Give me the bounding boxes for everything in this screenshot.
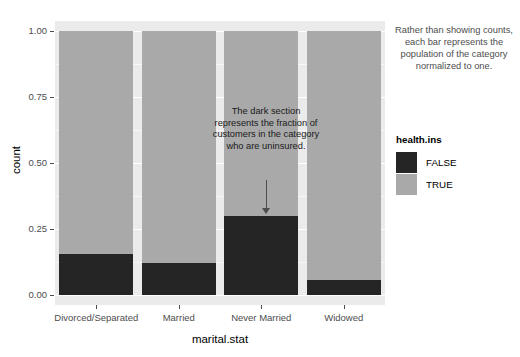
- bar-segment-false[interactable]: [142, 263, 216, 295]
- bar-group[interactable]: [59, 31, 133, 295]
- legend: health.ins FALSETRUE: [396, 134, 457, 195]
- y-tick-label: 1.00: [29, 26, 48, 36]
- plot-panel: [55, 21, 385, 305]
- legend-item-label: FALSE: [426, 157, 457, 168]
- y-tick-mark: [50, 97, 54, 98]
- legend-item[interactable]: TRUE: [396, 173, 457, 195]
- bars-layer: [55, 21, 385, 305]
- x-tick-mark: [344, 305, 345, 309]
- bar-segment-true[interactable]: [142, 31, 216, 263]
- bar-segment-false[interactable]: [59, 254, 133, 295]
- x-axis-title: marital.stat: [55, 333, 385, 345]
- annotation-side-note: Rather than showing counts, each bar rep…: [392, 24, 516, 72]
- bar-segment-false[interactable]: [224, 216, 298, 295]
- bar-segment-true[interactable]: [307, 31, 381, 280]
- chart-root: 0.000.250.500.751.00 count Divorced/Sepa…: [0, 0, 520, 357]
- y-tick-mark: [50, 295, 54, 296]
- bar-group[interactable]: [224, 31, 298, 295]
- annotation-in-plot: The dark section represents the fraction…: [212, 106, 320, 152]
- y-tick-label: 0.00: [29, 290, 48, 300]
- annotation-arrow-line: [266, 180, 267, 210]
- bar-group[interactable]: [307, 31, 381, 295]
- legend-key-swatch: [396, 152, 417, 173]
- x-tick-mark: [179, 305, 180, 309]
- y-tick-label: 0.50: [29, 158, 48, 168]
- y-tick-label: 0.25: [29, 224, 48, 234]
- annotation-arrow-head-icon: [262, 208, 270, 214]
- bar-segment-true[interactable]: [59, 31, 133, 254]
- y-tick-mark: [50, 31, 54, 32]
- legend-title: health.ins: [396, 134, 457, 145]
- x-tick-label: Widowed: [284, 312, 404, 323]
- y-axis-title: count: [10, 130, 22, 190]
- bar-segment-false[interactable]: [307, 280, 381, 295]
- x-tick-mark: [96, 305, 97, 309]
- y-tick-mark: [50, 163, 54, 164]
- legend-key-swatch: [396, 174, 417, 195]
- x-tick-mark: [261, 305, 262, 309]
- y-tick-mark: [50, 229, 54, 230]
- legend-item-label: TRUE: [426, 179, 453, 190]
- legend-items: FALSETRUE: [396, 151, 457, 195]
- y-tick-label: 0.75: [29, 92, 48, 102]
- bar-group[interactable]: [142, 31, 216, 295]
- legend-item[interactable]: FALSE: [396, 151, 457, 173]
